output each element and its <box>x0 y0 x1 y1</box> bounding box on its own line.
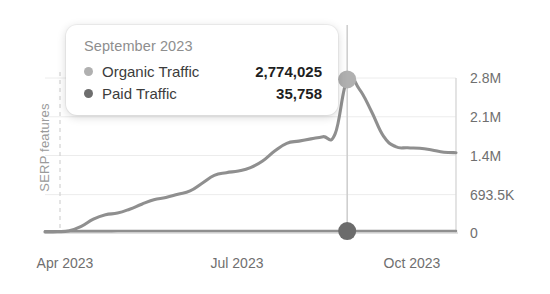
tooltip-row: Paid Traffic35,758 <box>84 85 322 102</box>
x-axis-tick-label: Jul 2023 <box>211 255 264 271</box>
series-color-dot-icon <box>84 89 93 98</box>
tooltip-row: Organic Traffic2,774,025 <box>84 63 322 80</box>
x-axis-tick-label: Apr 2023 <box>37 255 94 271</box>
chart-tooltip: September 2023 Organic Traffic2,774,025P… <box>66 25 338 115</box>
y-axis-title: SERP features <box>37 88 52 208</box>
tooltip-series-label: Paid Traffic <box>102 85 177 102</box>
tooltip-series-label: Organic Traffic <box>102 63 199 80</box>
y-axis-tick-label: 693.5K <box>470 187 514 203</box>
y-axis-tick-label: 2.8M <box>470 70 501 86</box>
x-axis-tick-labels: Apr 2023Jul 2023Oct 2023 <box>0 255 550 281</box>
tooltip-series-rows: Organic Traffic2,774,025Paid Traffic35,7… <box>84 63 322 102</box>
y-axis-tick-label: 2.1M <box>470 109 501 125</box>
organic-traffic-marker[interactable] <box>338 70 356 88</box>
y-axis-tick-label: 0 <box>470 225 478 241</box>
tooltip-title: September 2023 <box>84 38 322 54</box>
serp-traffic-chart-widget: SERP features 2.8M2.1M1.4M693.5K0 Apr 20… <box>0 0 550 294</box>
tooltip-series-value: 2,774,025 <box>255 63 322 80</box>
y-axis-tick-label: 1.4M <box>470 148 501 164</box>
series-color-dot-icon <box>84 67 93 76</box>
paid-traffic-marker[interactable] <box>338 222 356 240</box>
tooltip-series-value: 35,758 <box>276 85 322 102</box>
y-axis-tick-labels: 2.8M2.1M1.4M693.5K0 <box>470 0 550 294</box>
x-axis-tick-label: Oct 2023 <box>384 255 441 271</box>
